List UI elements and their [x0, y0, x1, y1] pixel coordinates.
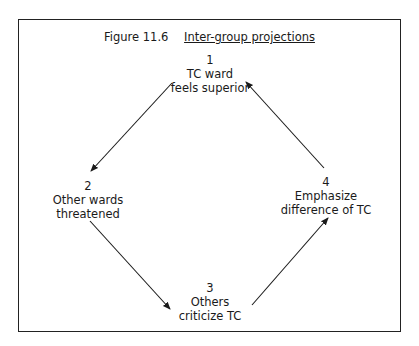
- arrow-3-to-4: [252, 218, 328, 305]
- arrow-1-to-2: [91, 83, 172, 171]
- arrow-4-to-1: [246, 82, 324, 168]
- arrows: [0, 0, 419, 346]
- arrow-2-to-3: [90, 221, 170, 309]
